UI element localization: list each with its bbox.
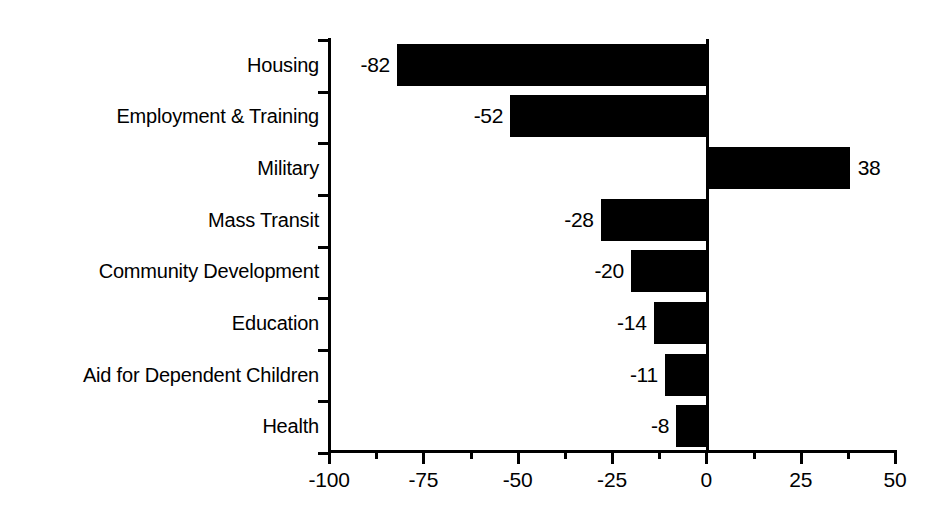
bar-value-label: -8 — [651, 415, 669, 437]
category-label: Aid for Dependent Children — [83, 364, 319, 386]
x-axis-major-tick — [894, 450, 897, 464]
x-axis-major-tick — [517, 450, 520, 464]
y-axis-tick — [318, 194, 329, 197]
category-label: Employment & Training — [116, 105, 319, 127]
bar — [631, 250, 706, 292]
x-axis-minor-tick — [375, 450, 378, 459]
y-axis-tick — [318, 297, 329, 300]
x-axis-major-tick — [328, 450, 331, 464]
bar-value-label: -28 — [564, 209, 593, 231]
x-axis-minor-tick — [847, 450, 850, 459]
y-axis-tick — [318, 39, 329, 42]
zero-baseline-segment — [706, 194, 709, 246]
x-axis-minor-tick — [753, 450, 756, 459]
x-axis-tick-label: -100 — [308, 468, 349, 492]
zero-baseline-segment — [706, 142, 709, 194]
bar-value-label: -52 — [474, 105, 503, 127]
y-axis-tick — [318, 142, 329, 145]
zero-baseline-segment — [706, 400, 709, 452]
bar-value-label: -20 — [594, 260, 623, 282]
bar — [601, 199, 707, 241]
bar — [706, 147, 849, 189]
y-axis-tick — [318, 246, 329, 249]
category-label: Housing — [247, 54, 319, 76]
bar-value-label: -14 — [617, 312, 646, 334]
bar-chart: HousingEmployment & TrainingMilitaryMass… — [0, 0, 936, 530]
zero-baseline-segment — [706, 349, 709, 401]
zero-baseline-segment — [706, 297, 709, 349]
bar — [510, 95, 706, 137]
bar-value-label: -11 — [630, 364, 658, 386]
bar — [676, 405, 706, 447]
x-axis-tick-label: -75 — [408, 468, 438, 492]
x-axis-tick-label: 50 — [884, 468, 907, 492]
category-label: Education — [232, 312, 319, 334]
y-axis-tick — [318, 349, 329, 352]
category-label: Community Development — [99, 260, 319, 282]
x-axis-major-tick — [611, 450, 614, 464]
y-axis-tick — [318, 91, 329, 94]
category-label: Health — [262, 415, 319, 437]
x-axis-tick-label: -25 — [597, 468, 627, 492]
bar — [654, 302, 707, 344]
x-axis-major-tick — [422, 450, 425, 464]
bar-value-label: 38 — [858, 157, 881, 179]
category-label: Military — [257, 157, 319, 179]
x-axis-tick-label: 25 — [789, 468, 812, 492]
zero-baseline-segment — [706, 246, 709, 298]
x-axis-minor-tick — [470, 450, 473, 459]
zero-baseline-segment — [706, 39, 709, 91]
bar — [665, 354, 707, 396]
plot-area: HousingEmployment & TrainingMilitaryMass… — [0, 0, 936, 530]
x-axis-minor-tick — [658, 450, 661, 459]
x-axis-major-tick — [705, 450, 708, 464]
x-axis-tick-label: 0 — [701, 468, 712, 492]
x-axis-major-tick — [800, 450, 803, 464]
bar-value-label: -82 — [360, 54, 389, 76]
bar — [397, 44, 706, 86]
zero-baseline-segment — [706, 91, 709, 143]
y-axis-tick — [318, 400, 329, 403]
x-axis-minor-tick — [564, 450, 567, 459]
x-axis-tick-label: -50 — [503, 468, 533, 492]
category-label: Mass Transit — [208, 209, 319, 231]
